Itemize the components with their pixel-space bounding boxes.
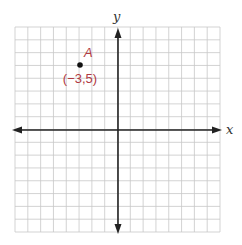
- x-axis: [12, 127, 222, 134]
- point-a-name: A: [83, 45, 93, 60]
- y-axis: [115, 28, 122, 234]
- point-a-coordinates: (−3,5): [63, 71, 97, 86]
- x-axis-right-arrow-icon: [212, 127, 222, 134]
- x-axis-label: x: [226, 122, 234, 137]
- coordinate-plane: y x A (−3,5): [0, 0, 242, 245]
- y-axis-up-arrow-icon: [115, 28, 122, 38]
- x-axis-left-arrow-icon: [12, 127, 22, 134]
- y-axis-label: y: [112, 9, 121, 24]
- point-a-marker: [77, 62, 83, 68]
- y-axis-down-arrow-icon: [115, 224, 122, 234]
